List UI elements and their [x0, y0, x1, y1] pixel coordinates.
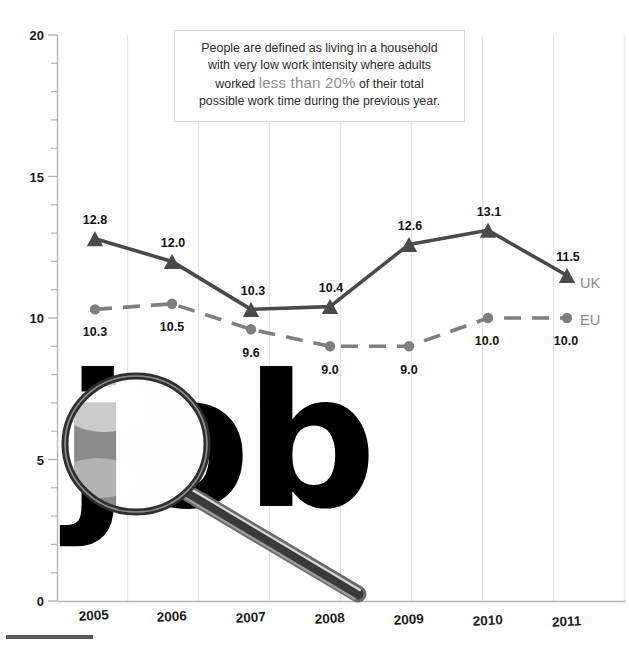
data-point: [90, 304, 100, 314]
x-tick-label: 2010: [472, 612, 503, 629]
annotation-emphasis: less than 20%: [259, 74, 356, 91]
legend-label-uk: UK: [580, 275, 600, 291]
data-label: 11.5: [556, 250, 580, 264]
x-tick-label: 2008: [314, 610, 345, 627]
series-uk-data-labels: 12.8 12.0 10.3 10.4 12.6 13.1 11.5: [83, 205, 580, 298]
data-point: [483, 313, 493, 323]
annotation-text: possible work time during the previous y…: [199, 94, 440, 108]
data-point: [562, 313, 572, 323]
x-tick-label: 2006: [156, 608, 187, 625]
data-label: 10.3: [241, 284, 265, 298]
x-tick-label: 2005: [78, 607, 109, 624]
x-tick-label: 2009: [393, 611, 424, 628]
annotation-line: with very low work intensity where adult…: [185, 57, 454, 74]
data-label: 10.4: [319, 281, 343, 295]
annotation-line: worked less than 20% of their total: [185, 74, 454, 93]
data-label: 9.6: [242, 346, 259, 360]
annotation-text: People are defined as living in a househ…: [201, 41, 437, 55]
data-point: [404, 341, 414, 351]
y-tick-label: 20: [30, 28, 44, 43]
data-label: 12.6: [398, 219, 422, 233]
data-label: 10.5: [160, 320, 184, 334]
y-axis-tick-labels: 20 15 10 5 0: [30, 28, 44, 609]
annotation-text: worked: [215, 77, 258, 91]
data-label: 12.0: [161, 236, 185, 250]
x-tick-label: 2011: [552, 613, 583, 630]
annotation-text: of their total: [356, 77, 424, 91]
data-label: 10.0: [475, 334, 499, 348]
data-label: 12.8: [83, 213, 107, 227]
data-point: [325, 341, 335, 351]
data-label: 10.0: [554, 334, 578, 348]
footer-rule: [6, 635, 93, 639]
y-tick-label: 0: [37, 594, 44, 609]
annotation-line: People are defined as living in a househ…: [185, 40, 454, 57]
y-tick-label: 5: [37, 453, 44, 468]
data-point: [246, 324, 256, 334]
legend-label-eu: EU: [580, 312, 600, 328]
data-label: 13.1: [477, 205, 501, 219]
data-label: 10.3: [83, 325, 107, 339]
y-tick-label: 15: [30, 170, 44, 185]
annotation-callout: People are defined as living in a househ…: [174, 30, 465, 122]
data-label: 9.0: [321, 363, 338, 377]
chart-page: 20 15 10 5 0 2005 2006 2007 2008 2009 20…: [0, 0, 629, 652]
x-tick-label: 2007: [235, 609, 266, 626]
x-axis-tick-labels: 2005 2006 2007 2008 2009 2010 2011: [78, 607, 582, 630]
data-point: [167, 299, 177, 309]
data-label: 9.0: [400, 363, 417, 377]
annotation-text: with very low work intensity where adult…: [208, 58, 431, 72]
annotation-line: possible work time during the previous y…: [185, 93, 454, 110]
y-tick-label: 10: [30, 311, 44, 326]
